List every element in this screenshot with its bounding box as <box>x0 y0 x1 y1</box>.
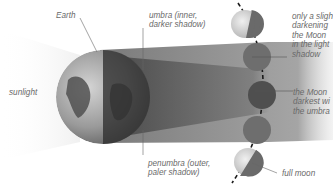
sunlight-label: sunlight <box>9 88 37 97</box>
moon-4 <box>243 116 271 144</box>
moon-1 <box>231 10 264 38</box>
umbra-label: umbra (inner, darker shadow) <box>149 11 205 30</box>
moon-3 <box>248 81 276 109</box>
penumbra-label: penumbra (outer, paler shadow) <box>148 159 210 178</box>
full-moon-label: full moon <box>282 169 315 178</box>
moon-5 <box>234 148 264 176</box>
earth-label: Earth <box>56 11 76 20</box>
slight-darkening-label: only a sligh darkening the Moon in the l… <box>292 12 333 59</box>
earth-leader <box>80 18 97 52</box>
darkest-label: the Moon darkest wi the umbra <box>293 88 330 116</box>
